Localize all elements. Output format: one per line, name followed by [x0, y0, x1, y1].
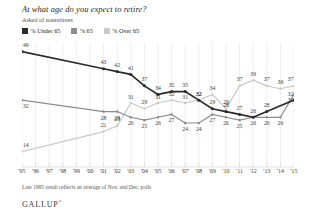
data-label: 26	[250, 108, 256, 114]
x-tick-label: '95	[19, 168, 26, 174]
chart-subtitle: Asked of nonretirees	[22, 17, 73, 23]
x-tick-label: '08	[195, 168, 202, 174]
data-point	[184, 102, 186, 104]
legend-label: % Under 65	[31, 28, 61, 34]
gallup-retirement-age-chart: At what age do you expect to retire? Ask…	[0, 0, 315, 219]
data-label: 28	[114, 115, 120, 121]
legend-swatch-icon	[22, 28, 28, 34]
data-label: 26	[155, 120, 161, 126]
data-point	[293, 85, 294, 87]
data-point	[225, 110, 228, 113]
data-point	[279, 116, 281, 118]
data-label: 26	[278, 120, 284, 126]
data-label: 25	[237, 123, 243, 129]
data-point	[143, 108, 145, 110]
x-tick-label: '03	[127, 168, 134, 174]
data-label: 25	[142, 123, 148, 129]
data-point	[266, 85, 268, 87]
data-label: 24	[196, 126, 202, 132]
data-point	[170, 99, 172, 101]
data-point	[279, 88, 281, 90]
data-label: 32	[196, 91, 202, 97]
data-label: 43	[101, 59, 107, 65]
x-tick-label: '97	[46, 168, 53, 174]
x-tick-label: '13	[263, 168, 270, 174]
data-label: 37	[237, 76, 243, 82]
data-point	[238, 119, 240, 121]
data-label: 37	[142, 76, 148, 82]
data-label: 34	[210, 85, 216, 91]
data-point	[238, 85, 240, 87]
legend-swatch-icon	[71, 28, 77, 34]
gallup-logo: GALLUP®	[22, 199, 62, 209]
data-point	[102, 110, 104, 112]
data-label: 27	[169, 117, 175, 123]
data-label: 34	[155, 85, 161, 91]
data-point	[116, 110, 118, 112]
line-chart-svg: 1421233129313231323429373937363732282826…	[22, 43, 294, 163]
chart-legend: % Under 65% 65% Over 65	[22, 28, 139, 34]
data-point	[130, 116, 132, 118]
data-label: 32	[288, 91, 294, 97]
data-point	[170, 113, 172, 115]
data-label: 24	[182, 126, 188, 132]
data-label: 28	[264, 102, 270, 108]
legend-over-65: % Over 65	[104, 28, 139, 34]
data-point	[225, 116, 227, 118]
data-point	[211, 93, 213, 95]
data-label: 49	[23, 43, 29, 48]
legend-label: % Over 65	[112, 28, 139, 34]
data-label: 37	[288, 76, 294, 82]
data-label: 28	[223, 102, 229, 108]
data-label: 36	[278, 79, 284, 85]
data-label: 35	[169, 82, 175, 88]
data-label: 26	[264, 120, 270, 126]
data-point	[198, 122, 200, 124]
data-label: 34	[288, 97, 294, 103]
data-point	[197, 99, 200, 102]
legend-under-65: % Under 65	[22, 28, 60, 34]
data-label: 21	[101, 122, 107, 128]
data-point	[157, 116, 159, 118]
x-tick-label: '15	[291, 168, 298, 174]
data-point	[129, 73, 132, 76]
x-tick-label: '06	[168, 168, 175, 174]
data-label: 26	[223, 120, 229, 126]
data-point	[252, 116, 255, 119]
data-label: 14	[23, 142, 29, 148]
data-label: 29	[210, 99, 216, 105]
x-tick-label: '07	[182, 168, 189, 174]
x-tick-label: '10	[223, 168, 230, 174]
data-label: 42	[114, 62, 120, 68]
data-point	[184, 122, 186, 124]
data-label: 31	[182, 94, 188, 100]
legend-swatch-icon	[104, 28, 110, 34]
data-point	[116, 70, 119, 73]
data-label: 41	[128, 65, 134, 71]
data-point	[157, 102, 159, 104]
x-tick-label: '12	[250, 168, 257, 174]
legend-label: % 65	[80, 28, 93, 34]
data-point	[143, 119, 145, 121]
x-tick-label: '09	[209, 168, 216, 174]
x-tick-label: '96	[32, 168, 39, 174]
data-point	[143, 84, 146, 87]
data-label: 27	[210, 117, 216, 123]
data-label: 31	[128, 94, 134, 100]
data-point	[102, 130, 104, 132]
x-tick-label: '14	[277, 168, 284, 174]
x-tick-label: '99	[73, 168, 80, 174]
x-tick-label: '01	[100, 168, 107, 174]
x-axis-tick-labels: '95'96'97'98'99'00'01'02'03'04'05'06'07'…	[22, 168, 294, 178]
chart-footnote: Late 1995 result reflects an average of …	[22, 184, 151, 190]
data-label: 26	[250, 120, 256, 126]
data-label: 29	[142, 99, 148, 105]
x-tick-label: '11	[236, 168, 243, 174]
data-label: 37	[264, 76, 270, 82]
data-label: 32	[169, 91, 175, 97]
page-title: At what age do you expect to retire?	[22, 5, 147, 14]
data-point	[102, 67, 105, 70]
x-tick-label: '05	[155, 168, 162, 174]
x-tick-label: '02	[114, 168, 121, 174]
data-point	[266, 116, 268, 118]
